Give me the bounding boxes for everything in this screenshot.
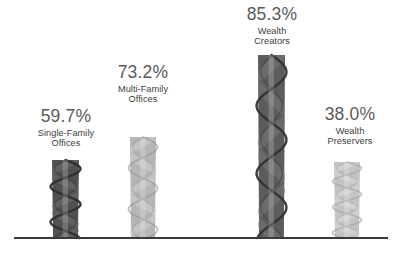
bar-category-line2: Offices	[93, 95, 193, 104]
bar-category-line2: Creators	[222, 37, 322, 46]
bar-label-multi-family-offices: 73.2% Multi-Family Offices	[93, 64, 193, 104]
bar-label-wealth-creators: 85.3% Wealth Creators	[222, 6, 322, 46]
bar-value-label: 73.2%	[93, 64, 193, 82]
bar-value-label: 38.0%	[300, 106, 400, 124]
bar-category-line1: Wealth	[222, 27, 322, 36]
bar-category-line1: Single-Family	[16, 129, 116, 138]
bar-category-line1: Multi-Family	[93, 85, 193, 94]
bar-category-line1: Wealth	[300, 127, 400, 136]
bar-multi-family-offices	[129, 137, 158, 238]
bar-value-label: 85.3%	[222, 6, 322, 24]
bar-category-line2: Preservers	[300, 137, 400, 146]
bar-label-wealth-preservers: 38.0% Wealth Preservers	[300, 106, 400, 146]
bar-value-label: 59.7%	[16, 108, 116, 126]
bar-wealth-preservers	[333, 162, 362, 238]
bar-label-single-family-offices: 59.7% Single-Family Offices	[16, 108, 116, 148]
bar-wealth-creators	[257, 55, 287, 238]
bar-category-line2: Offices	[16, 139, 116, 148]
bar-single-family-offices	[51, 160, 81, 238]
